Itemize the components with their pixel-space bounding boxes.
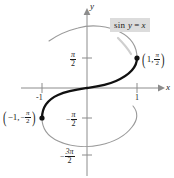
fraction-pi-over-2: π 2 (71, 111, 77, 128)
graph-figure: x y -1 1 π 2 − π 2 − 3π 2 siny=x (1, π 2… (0, 0, 174, 178)
x-tick-label-neg1: -1 (36, 94, 43, 102)
point-x-value: 1, (147, 55, 154, 64)
fraction-denominator: 2 (25, 118, 31, 125)
y-tick-label-neg-3pi-over-2: − 3π 2 (60, 148, 75, 165)
fraction-denominator: 2 (70, 60, 76, 68)
right-paren: ) (161, 54, 165, 66)
y-tick-label-pi-over-2: π 2 (70, 51, 76, 68)
fraction-denominator: 2 (71, 120, 77, 128)
equation-function-name: sin (114, 20, 125, 30)
axes-group (21, 8, 165, 176)
right-paren: ) (32, 112, 36, 124)
x-axis-arrow (158, 85, 165, 92)
point-label-lower: (−1,− π 2 ) (2, 110, 36, 125)
point-y-fraction: π 2 (154, 52, 160, 67)
equation-callout-label: siny=x (110, 18, 150, 32)
x-axis-label: x (166, 83, 170, 92)
point-x-value: −1, (8, 113, 20, 122)
left-paren: ( (3, 112, 7, 124)
y-axis-label: y (90, 2, 94, 11)
callout-leader-line (118, 38, 131, 54)
fraction-pi-over-2: π 2 (70, 51, 76, 68)
equation-equals-sign: = (134, 20, 139, 30)
point-y-fraction: π 2 (25, 110, 31, 125)
curve-lower-extension (42, 106, 137, 147)
point-marker-upper (134, 55, 139, 60)
fraction-denominator: 2 (65, 157, 75, 165)
left-paren: ( (142, 54, 146, 66)
x-tick-label-pos1: 1 (135, 94, 139, 102)
equation-variable-y: y (128, 20, 132, 30)
fraction-3pi-over-2: 3π 2 (65, 148, 75, 165)
fraction-denominator: 2 (154, 60, 160, 67)
y-tick-label-neg-pi-over-2: − π 2 (66, 111, 77, 128)
point-label-upper: (1, π 2 ) (141, 52, 166, 67)
equation-variable-x: x (142, 20, 146, 30)
point-marker-lower (39, 115, 44, 120)
